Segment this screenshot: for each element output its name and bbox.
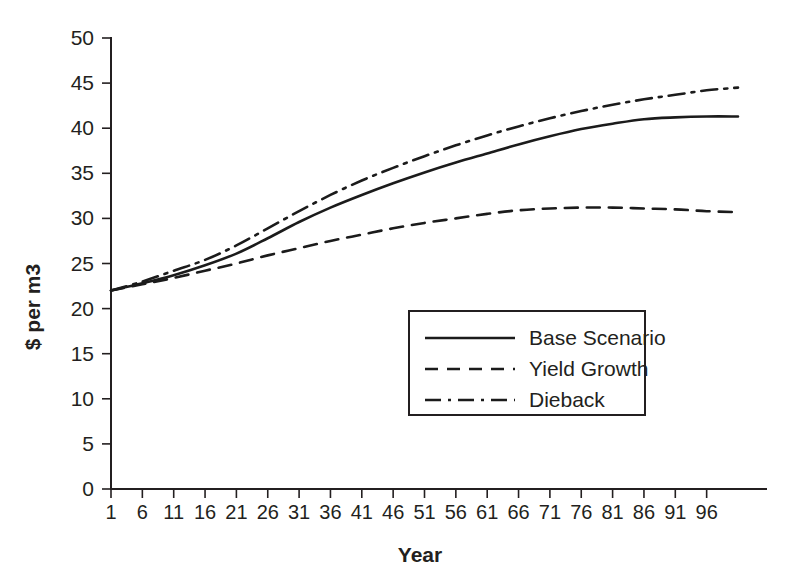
- x-tick-label: 71: [539, 501, 561, 523]
- chart-legend: Base ScenarioYield GrowthDieback: [409, 311, 666, 415]
- x-axis-title: Year: [398, 543, 442, 566]
- y-tick-label: 40: [71, 116, 94, 139]
- x-tick-label: 51: [413, 501, 435, 523]
- x-tick-label: 46: [382, 501, 404, 523]
- x-tick-label: 36: [319, 501, 341, 523]
- y-tick-label: 25: [71, 252, 94, 275]
- y-tick-label: 20: [71, 297, 94, 320]
- x-tick-label: 81: [601, 501, 623, 523]
- y-tick-label: 35: [71, 161, 94, 184]
- x-tick-label: 61: [476, 501, 498, 523]
- y-tick-label: 0: [82, 477, 94, 500]
- x-tick-label: 6: [137, 501, 148, 523]
- x-tick-label: 1: [105, 501, 116, 523]
- y-tick-label: 10: [71, 387, 94, 410]
- x-tick-label: 16: [194, 501, 216, 523]
- x-tick-label: 76: [570, 501, 592, 523]
- x-tick-label: 96: [696, 501, 718, 523]
- y-tick-label: 50: [71, 26, 94, 49]
- x-tick-label: 91: [664, 501, 686, 523]
- x-tick-label: 56: [445, 501, 467, 523]
- y-tick-label: 45: [71, 71, 94, 94]
- legend-label-yield-growth: Yield Growth: [529, 357, 648, 380]
- line-chart: 05101520253035404550 1611162126313641465…: [0, 0, 788, 581]
- x-axis-ticks: 16111621263136414651566166717681869196: [105, 489, 717, 523]
- legend-label-dieback: Dieback: [529, 388, 605, 411]
- series-group: [111, 88, 738, 291]
- x-tick-label: 21: [225, 501, 247, 523]
- x-tick-label: 11: [163, 501, 184, 523]
- legend-label-base-scenario: Base Scenario: [529, 326, 666, 349]
- series-line-base-scenario: [111, 116, 738, 290]
- y-tick-label: 15: [71, 342, 94, 365]
- x-tick-label: 26: [257, 501, 279, 523]
- y-tick-label: 5: [82, 432, 94, 455]
- y-tick-label: 30: [71, 206, 94, 229]
- y-axis-title: $ per m3: [21, 264, 44, 350]
- x-tick-label: 41: [351, 501, 373, 523]
- series-line-yield-growth: [111, 207, 738, 290]
- chart-container: 05101520253035404550 1611162126313641465…: [0, 0, 788, 581]
- y-axis-ticks: 05101520253035404550: [71, 26, 111, 500]
- x-tick-label: 86: [633, 501, 655, 523]
- x-tick-label: 66: [507, 501, 529, 523]
- x-tick-label: 31: [288, 501, 310, 523]
